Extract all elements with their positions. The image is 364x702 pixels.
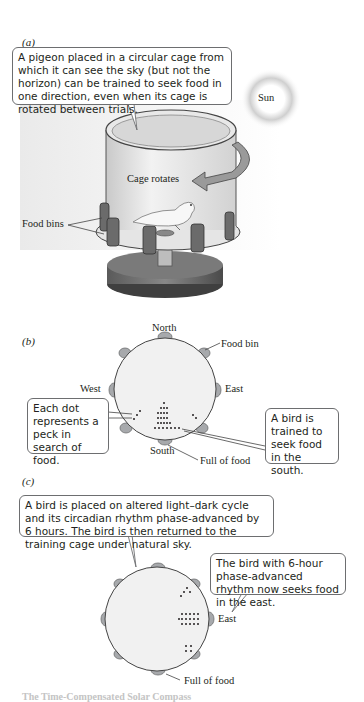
east-label-c: East (218, 613, 236, 624)
panel-c-label: (c) (22, 475, 34, 487)
east-label-b: East (225, 383, 243, 394)
figure-caption: The Time-Compensated Solar Compass (22, 691, 191, 702)
full-of-food-label-c: Full of food (184, 675, 234, 686)
panel-b-right-callout: A bird is trained to seek food in the so… (265, 408, 339, 464)
full-of-food-label-b: Full of food (200, 455, 250, 466)
panel-b-left-callout: Each dot represents a peck in search of … (27, 398, 109, 454)
food-bin-label: Food bin (221, 338, 259, 349)
panel-b-label: (b) (22, 335, 35, 347)
south-label: South (150, 445, 175, 456)
food-bins-label: Food bins (22, 218, 64, 229)
cage-spindle (158, 248, 172, 266)
panel-c-right-callout: The bird with 6-hour phase-advanced rhyt… (210, 553, 346, 595)
panel-c-top-callout: A bird is placed on altered light–dark c… (19, 495, 274, 537)
sun-label: Sun (258, 92, 274, 103)
cage-rotates-label: Cage rotates (127, 173, 179, 184)
panel-a-callout: A pigeon placed in a circular cage from … (12, 47, 232, 105)
north-label: North (152, 322, 177, 333)
compass-b (108, 332, 265, 460)
west-label: West (80, 383, 101, 394)
